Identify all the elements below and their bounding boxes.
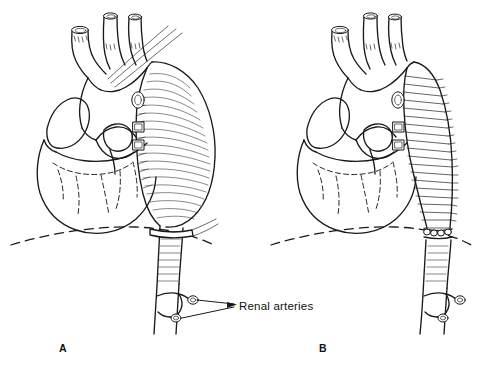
panel-letter-a: A: [59, 342, 67, 354]
medical-illustration-svg: Renal arteries A: [0, 0, 479, 368]
figure-background: [0, 0, 479, 368]
figure-root: Renal arteries A: [0, 0, 479, 368]
renal-arteries-label: Renal arteries: [239, 300, 313, 312]
panel-letter-b: B: [319, 342, 327, 354]
